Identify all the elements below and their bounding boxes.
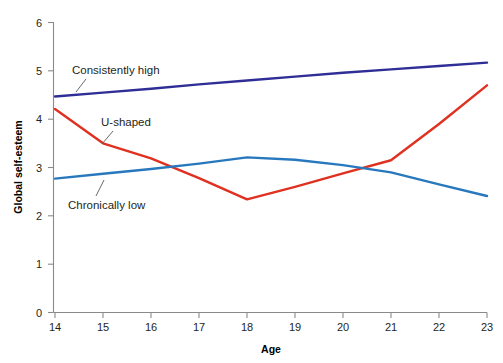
leader-line-u-shaped (102, 131, 113, 144)
y-axis-tick-labels: 6 5 4 3 2 1 0 (36, 17, 42, 319)
leader-line-chronically-low (96, 180, 104, 196)
x-tick-label-22: 22 (433, 321, 445, 333)
y-tick-label-5: 5 (36, 65, 42, 77)
leader-line-consistently-high (76, 79, 86, 92)
y-tick-label-3: 3 (36, 162, 42, 174)
x-axis-ticks (55, 313, 487, 319)
chart-container: 6 5 4 3 2 1 0 14 15 16 17 18 (0, 0, 503, 363)
y-tick-label-2: 2 (36, 210, 42, 222)
y-tick-label-6: 6 (36, 17, 42, 29)
y-tick-label-4: 4 (36, 113, 42, 125)
series-line-chronically-low (55, 157, 487, 196)
annotation-labels: Consistently high U-shaped Chronically l… (68, 64, 160, 211)
y-tick-label-0: 0 (36, 307, 42, 319)
x-axis-title: Age (261, 343, 281, 355)
x-tick-label-21: 21 (385, 321, 397, 333)
x-tick-label-23: 23 (481, 321, 493, 333)
series-label-consistently-high: Consistently high (72, 64, 160, 76)
x-tick-label-14: 14 (49, 321, 61, 333)
x-tick-label-18: 18 (241, 321, 253, 333)
x-tick-label-16: 16 (145, 321, 157, 333)
series-label-u-shaped: U-shaped (101, 116, 151, 128)
y-axis-title: Global self-esteem (12, 120, 24, 213)
y-axis-ticks (48, 23, 54, 313)
x-axis-tick-labels: 14 15 16 17 18 19 20 21 22 23 (49, 321, 493, 333)
line-chart: 6 5 4 3 2 1 0 14 15 16 17 18 (0, 0, 503, 363)
series-line-u-shaped (55, 85, 487, 199)
x-tick-label-15: 15 (97, 321, 109, 333)
x-tick-label-19: 19 (289, 321, 301, 333)
y-tick-label-1: 1 (36, 258, 42, 270)
x-tick-label-17: 17 (193, 321, 205, 333)
x-tick-label-20: 20 (337, 321, 349, 333)
series-group (55, 63, 487, 200)
series-label-chronically-low: Chronically low (68, 199, 146, 211)
